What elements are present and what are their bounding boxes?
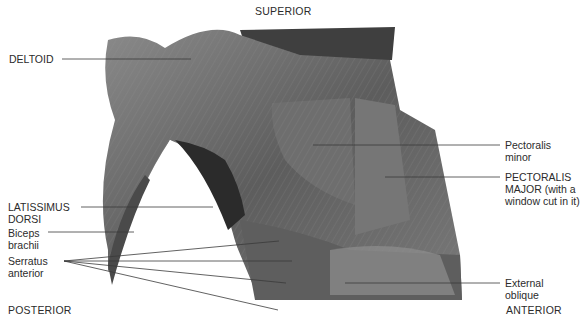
label-deltoid: DELTOID xyxy=(9,53,54,65)
label-line: PECTORALIS xyxy=(505,171,580,183)
label-line: window cut in it) xyxy=(505,195,580,207)
label-pectoralis-major: PECTORALIS MAJOR (with a window cut in i… xyxy=(505,171,580,207)
orientation-superior: SUPERIOR xyxy=(255,5,311,17)
label-line: anterior xyxy=(8,267,48,279)
label-serratus-anterior: Serratus anterior xyxy=(8,255,48,279)
label-line: minor xyxy=(505,151,551,163)
label-line: DORSI xyxy=(8,213,70,225)
label-pectoralis-minor: Pectoralis minor xyxy=(505,139,551,163)
orientation-posterior: POSTERIOR xyxy=(8,304,72,316)
orientation-anterior: ANTERIOR xyxy=(506,304,562,316)
label-biceps-brachii: Biceps brachii xyxy=(8,227,40,251)
label-line: Biceps xyxy=(8,227,40,239)
label-line: oblique xyxy=(505,289,544,301)
label-external-oblique: External oblique xyxy=(505,277,544,301)
label-line: brachii xyxy=(8,239,40,251)
label-line: LATISSIMUS xyxy=(8,201,70,213)
label-line: Pectoralis xyxy=(505,139,551,151)
label-latissimus-dorsi: LATISSIMUS DORSI xyxy=(8,201,70,225)
label-line: External xyxy=(505,277,544,289)
label-line: Serratus xyxy=(8,255,48,267)
label-line: MAJOR (with a xyxy=(505,183,580,195)
dissection-photo xyxy=(0,0,587,332)
